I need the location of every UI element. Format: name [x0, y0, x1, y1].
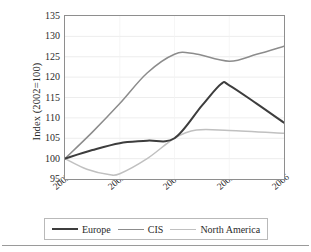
legend-label: CIS [148, 224, 164, 235]
series-canvas [65, 16, 284, 179]
legend-line-swatch [52, 228, 78, 230]
legend-entry[interactable]: CIS [118, 224, 164, 235]
legend-entry[interactable]: North America [170, 224, 260, 235]
chart-legend: EuropeCISNorth America [44, 218, 268, 240]
chart-figure: Index (2002=100) 95100105110115120125130… [0, 0, 311, 252]
y-tick-label: 120 [30, 72, 60, 82]
y-tick-label: 135 [30, 11, 60, 21]
y-tick-label: 130 [30, 31, 60, 41]
legend-label: North America [200, 224, 260, 235]
legend-label: Europe [82, 224, 111, 235]
plot-area [64, 15, 285, 180]
y-tick-label: 110 [30, 113, 60, 123]
y-tick-label: 115 [30, 93, 60, 103]
y-tick-label: 105 [30, 133, 60, 143]
y-tick-label: 125 [30, 52, 60, 62]
legend-line-swatch [170, 229, 196, 230]
legend-entry[interactable]: Europe [52, 224, 111, 235]
page-separator-rule [2, 245, 309, 246]
y-tick-label: 100 [30, 154, 60, 164]
legend-line-swatch [118, 229, 144, 230]
